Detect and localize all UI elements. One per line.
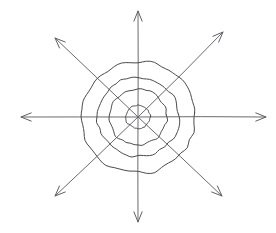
arrows-layer — [21, 11, 266, 222]
arrow-down-left — [55, 117, 138, 196]
arrow-up-right — [138, 32, 223, 117]
arrow-up-right-shaft — [138, 32, 223, 117]
arrow-down-right-shaft — [138, 117, 222, 196]
radial-diagram — [0, 0, 276, 233]
arrow-up-left — [55, 38, 138, 117]
arrow-right — [138, 113, 266, 121]
drawing-canvas — [0, 0, 276, 233]
arrow-down — [134, 117, 142, 222]
arrow-down-right — [138, 117, 222, 196]
arrow-down-left-shaft — [55, 117, 138, 196]
arrow-left — [21, 113, 138, 121]
arrow-up-left-shaft — [55, 38, 138, 117]
arrow-up — [134, 11, 142, 117]
